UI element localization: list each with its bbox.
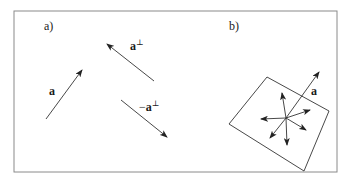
figure-frame xyxy=(14,11,337,172)
vector-a-perp-label: a⊥ xyxy=(130,38,144,53)
vector-a-label: a xyxy=(49,84,55,98)
vector-neg-a-perp-label: −a⊥ xyxy=(139,99,159,114)
plane-vector-arrow-0 xyxy=(282,93,286,118)
plane-vector-arrow-5 xyxy=(286,118,287,145)
normal-vector-a-label: a xyxy=(311,84,317,98)
plane-vector-arrow-3 xyxy=(286,118,306,130)
panel-a-label: a) xyxy=(44,19,53,33)
plane-vector-arrow-1 xyxy=(261,118,286,119)
panel-a: a) aa⊥−a⊥ xyxy=(44,19,167,137)
panel-b-label: b) xyxy=(229,19,239,33)
plane-vector-arrow-2 xyxy=(286,110,310,118)
vector-diagram: a) aa⊥−a⊥ b) a xyxy=(0,0,350,183)
plane-vector-arrow-4 xyxy=(270,118,286,138)
panel-b: b) a xyxy=(229,19,329,171)
